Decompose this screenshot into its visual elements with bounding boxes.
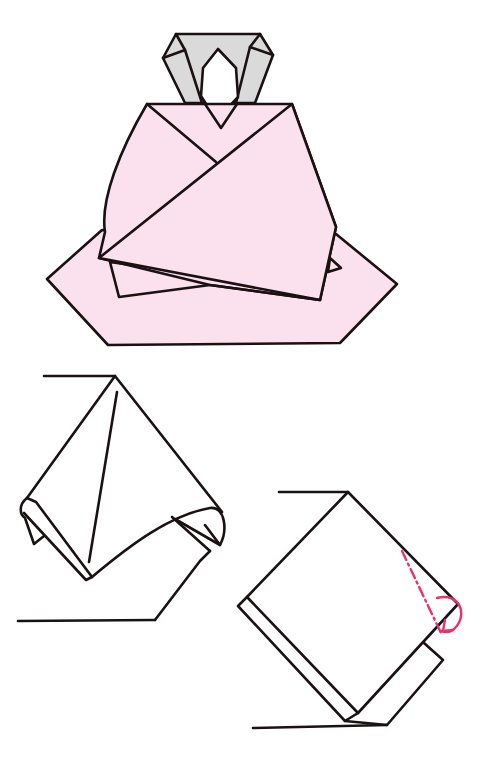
origami-diagram — [0, 0, 480, 759]
finished-model — [47, 34, 397, 345]
step-a — [18, 376, 224, 621]
step-b — [238, 492, 461, 728]
diagram-canvas: Origami seated figure folding diagram — [0, 0, 480, 759]
crease-line — [89, 392, 117, 562]
